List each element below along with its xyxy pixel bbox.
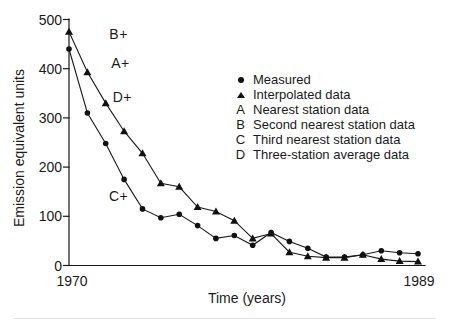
legend-item: DThree-station average data xyxy=(233,147,415,162)
legend-letter-A: A xyxy=(233,102,248,117)
interpolated-point xyxy=(157,179,165,186)
y-axis-title: Emission equivalent units xyxy=(11,69,27,227)
triangle-marker-icon xyxy=(237,92,245,98)
measured-point xyxy=(103,141,109,147)
station-annotation-A: A+ xyxy=(111,55,130,71)
measured-point xyxy=(305,246,311,252)
measured-point xyxy=(213,236,219,242)
interpolated-point xyxy=(102,99,110,106)
measured-point xyxy=(232,233,238,239)
y-tick-label: 500 xyxy=(16,12,62,28)
legend-triangle-icon xyxy=(233,92,248,98)
legend: MeasuredInterpolated dataANearest statio… xyxy=(233,72,415,162)
legend-label: Interpolated data xyxy=(253,87,351,102)
legend-item: Interpolated data xyxy=(233,87,415,102)
x-tick-label-end: 1989 xyxy=(403,273,434,289)
legend-circle-icon xyxy=(233,77,248,83)
measured-point xyxy=(195,223,201,229)
measured-point xyxy=(121,177,127,183)
legend-label: Three-station average data xyxy=(253,147,409,162)
measured-point xyxy=(415,251,421,257)
station-annotation-B: B+ xyxy=(109,26,128,42)
legend-label: Third nearest station data xyxy=(253,132,400,147)
circle-marker-icon xyxy=(238,77,244,83)
station-annotation-C: C+ xyxy=(109,188,128,204)
interpolated-point xyxy=(230,217,238,224)
chart-figure: 0100200300400500 1970 1989 Emission equi… xyxy=(0,0,454,324)
legend-label: Nearest station data xyxy=(253,102,369,117)
x-tick-label-start: 1970 xyxy=(56,273,87,289)
measured-point xyxy=(66,46,72,52)
interpolated-point xyxy=(65,28,73,35)
legend-item: ANearest station data xyxy=(233,102,415,117)
measured-point xyxy=(85,110,91,116)
interpolated-point xyxy=(267,230,275,237)
y-tick-label: 0 xyxy=(16,258,62,274)
legend-item: BSecond nearest station data xyxy=(233,117,415,132)
station-annotation-D: D+ xyxy=(113,89,132,105)
measured-point xyxy=(140,206,146,212)
interpolated-point xyxy=(83,68,91,75)
interpolated-point xyxy=(120,127,128,134)
legend-letter-C: C xyxy=(233,132,248,147)
measured-point xyxy=(379,248,385,254)
measured-point xyxy=(287,239,293,245)
legend-label: Measured xyxy=(253,72,311,87)
x-axis-title: Time (years) xyxy=(208,290,286,306)
legend-letter-D: D xyxy=(233,147,248,162)
legend-label: Second nearest station data xyxy=(253,117,415,132)
legend-letter-B: B xyxy=(233,117,248,132)
measured-point xyxy=(158,215,164,221)
measured-point xyxy=(176,212,182,218)
legend-item: CThird nearest station data xyxy=(233,132,415,147)
measured-point xyxy=(250,243,256,249)
measured-point xyxy=(397,250,403,256)
scan-artifact-line xyxy=(14,318,436,319)
legend-item: Measured xyxy=(233,72,415,87)
